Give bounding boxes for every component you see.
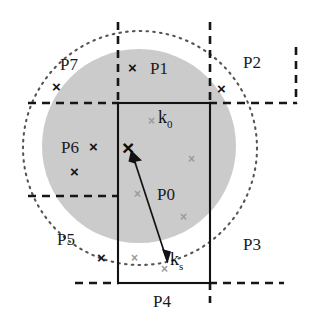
mark-p2: × bbox=[217, 81, 226, 96]
figure-canvas: P7 P1 P2 P6 P0 P5 P3 P4 k0 ks × × × × × … bbox=[0, 0, 313, 320]
mark-p5: × bbox=[97, 250, 106, 265]
vector-label-ks: ks bbox=[170, 250, 183, 272]
vector-label-k0-sub: 0 bbox=[167, 118, 173, 130]
mark-p1: × bbox=[128, 60, 137, 75]
vector-label-k0-base: k bbox=[158, 107, 167, 127]
grey-mark-left-mid: × bbox=[134, 188, 141, 200]
mark-p6-a: × bbox=[89, 139, 98, 154]
grey-mark-right-upper: × bbox=[188, 153, 195, 165]
mark-p6-b: × bbox=[70, 164, 79, 179]
vector-label-ks-base: k bbox=[170, 249, 179, 269]
mark-p7: × bbox=[52, 79, 61, 94]
grey-mark-right-lower: × bbox=[180, 211, 187, 223]
region-label-p2: P2 bbox=[243, 54, 261, 71]
diagram-svg bbox=[0, 0, 313, 320]
region-label-p7: P7 bbox=[60, 56, 78, 73]
grey-mark-ks: × bbox=[161, 263, 168, 275]
region-label-p1: P1 bbox=[150, 60, 168, 77]
vector-label-ks-sub: s bbox=[179, 260, 183, 272]
grey-mark-bottom-left: × bbox=[131, 252, 138, 264]
region-label-p4: P4 bbox=[153, 293, 171, 310]
k0-center-mark: × bbox=[122, 137, 134, 158]
grey-mark-k0: × bbox=[148, 115, 155, 127]
vector-label-k0: k0 bbox=[158, 108, 173, 130]
region-label-p0: P0 bbox=[157, 186, 175, 203]
region-label-p5: P5 bbox=[57, 231, 75, 248]
region-label-p3: P3 bbox=[243, 236, 261, 253]
region-label-p6: P6 bbox=[61, 139, 79, 156]
